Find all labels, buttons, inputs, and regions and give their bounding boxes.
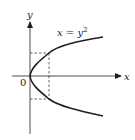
parabola-diagram: y x 0 x = y2 xyxy=(0,0,135,140)
origin-label: 0 xyxy=(20,77,26,88)
equation-equals: = xyxy=(63,27,78,38)
parabola-curve xyxy=(30,37,103,116)
x-axis-label: x xyxy=(124,71,130,82)
equation-label: x = y2 xyxy=(57,26,88,38)
equation-exponent: 2 xyxy=(83,26,87,34)
y-axis-label: y xyxy=(26,9,33,20)
